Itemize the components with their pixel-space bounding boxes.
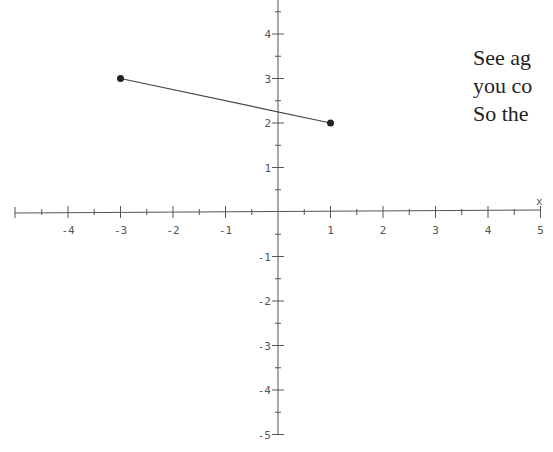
y-tick-label: -3 (258, 340, 271, 353)
side-text-line: See ag (473, 44, 532, 72)
x-axis-label: x (536, 195, 543, 208)
y-tick-label: 4 (264, 28, 271, 41)
y-tick-label: -5 (258, 429, 271, 442)
y-tick-label: -1 (258, 251, 271, 264)
x-tick-label: 5 (537, 224, 544, 237)
x-tick-label: -1 (219, 224, 232, 237)
x-tick-label: 2 (380, 224, 387, 237)
y-tick-label: 1 (264, 162, 271, 175)
x-tick-label: 3 (432, 224, 439, 237)
endpoint-marker (117, 75, 124, 82)
x-tick-label: 1 (327, 224, 334, 237)
side-text-line: you co (473, 72, 532, 100)
coordinate-plane: -4-3-2-112345-5-4-3-2-11234 x (0, 0, 553, 452)
y-tick-label: -4 (258, 384, 272, 397)
side-text: See ag you co So the (473, 44, 532, 128)
segment-series (117, 75, 334, 127)
axes (15, 0, 541, 435)
y-tick-label: 2 (264, 117, 271, 130)
x-tick-label: -3 (114, 224, 127, 237)
x-tick-label: -4 (61, 224, 75, 237)
x-tick-label: -2 (166, 224, 179, 237)
endpoint-marker (327, 120, 334, 127)
line-segment (121, 79, 331, 124)
tick-labels: -4-3-2-112345-5-4-3-2-11234 (61, 28, 543, 442)
y-tick-label: -2 (258, 295, 271, 308)
side-text-line: So the (473, 100, 532, 128)
x-tick-label: 4 (485, 224, 492, 237)
y-tick-label: 3 (264, 73, 271, 86)
